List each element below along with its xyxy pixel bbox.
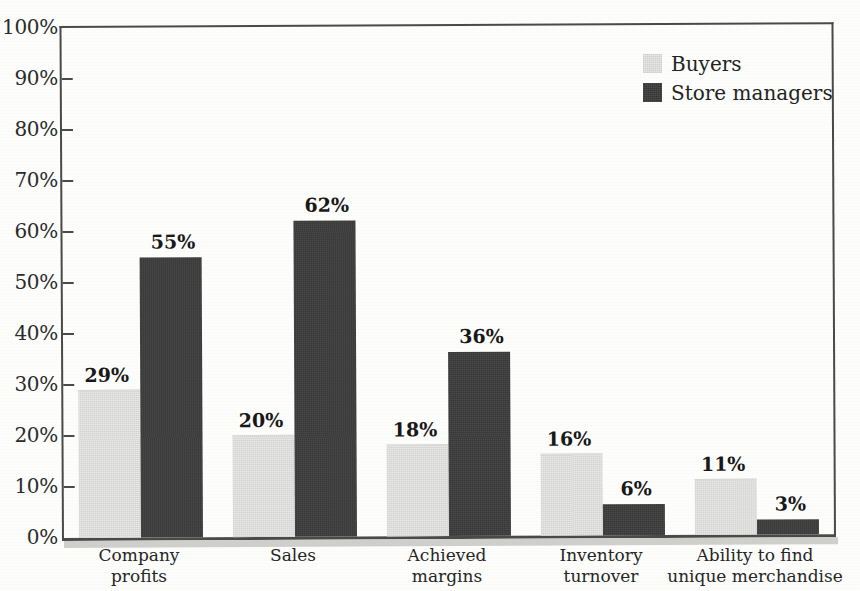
bar-value-label: 6% (621, 478, 652, 500)
bar-value-label: 36% (459, 325, 504, 347)
y-axis-tick-label: 90% (2, 68, 58, 88)
bar-chart: 0%10%20%30%40%50%60%70%80%90%100% 29%55%… (0, 0, 860, 591)
chart-legend: BuyersStore managers (643, 49, 833, 107)
y-axis-tick-label: 60% (2, 221, 58, 241)
bar-value-label: 55% (151, 230, 196, 252)
y-axis-tick-label: 100% (2, 17, 58, 37)
y-axis-tick-label: 40% (2, 323, 58, 343)
y-axis-tick-label: 0% (2, 527, 58, 547)
y-axis-tick-label: 30% (2, 374, 58, 394)
legend-swatch-icon (643, 83, 662, 102)
legend-item-label: Buyers (671, 52, 742, 76)
x-axis-category-label: Ability to find unique merchandise (655, 545, 855, 588)
bar-buyers: 29% (78, 390, 141, 538)
legend-swatch-icon (643, 54, 662, 73)
y-axis-tick-label: 50% (2, 272, 58, 292)
bar-buyers: 16% (541, 454, 603, 536)
bar-store-managers: 3% (757, 519, 819, 535)
bar-value-label: 11% (701, 453, 746, 475)
bar-value-label: 16% (547, 428, 592, 450)
bar-buyers: 20% (232, 435, 294, 537)
bar-buyers: 11% (695, 479, 757, 535)
bar-value-label: 3% (775, 492, 806, 514)
bar-value-label: 18% (393, 418, 438, 440)
y-axis-tick-label: 20% (2, 425, 58, 445)
bar-buyers: 18% (387, 444, 449, 536)
bar-store-managers: 6% (603, 504, 665, 535)
legend-item: Buyers (643, 49, 833, 78)
y-axis-tick-label: 80% (2, 119, 58, 139)
bar-store-managers: 36% (448, 352, 511, 536)
bar-value-label: 29% (84, 364, 129, 386)
bar-value-label: 20% (239, 409, 284, 431)
y-axis-tick-label: 70% (2, 170, 58, 190)
bar-store-managers: 62% (293, 220, 357, 536)
bar-store-managers: 55% (140, 257, 203, 538)
legend-item-label: Store managers (671, 81, 833, 105)
y-axis-tick-label: 10% (2, 476, 58, 496)
legend-item: Store managers (643, 78, 833, 107)
x-axis-label-group: Company profitsSalesAchieved marginsInve… (62, 545, 836, 591)
y-axis-label-group: 0%10%20%30%40%50%60%70%80%90%100% (0, 0, 58, 591)
bar-value-label: 62% (305, 193, 350, 215)
